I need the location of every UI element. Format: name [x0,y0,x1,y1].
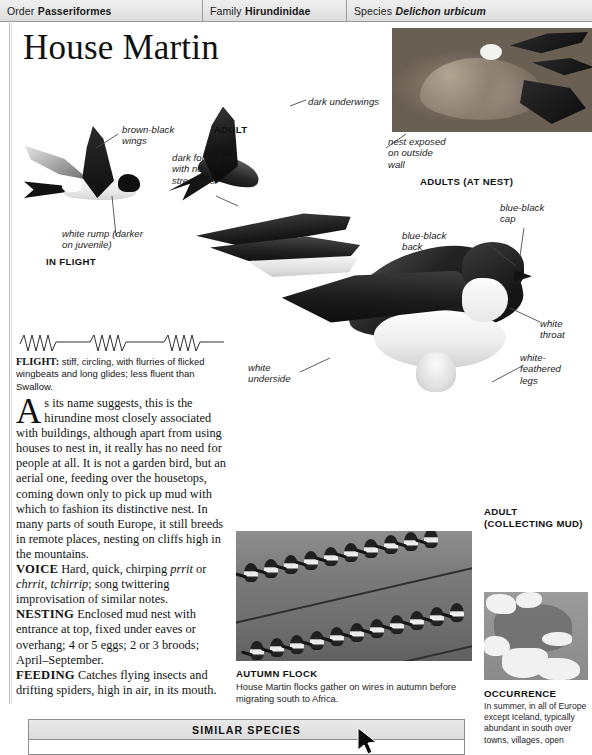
flock-bird [410,611,424,630]
order-label: Order [7,5,34,17]
family-value: Hirundinidae [245,5,310,17]
label-white-underside: white underside [248,362,291,385]
taxonomy-header: Order Passeriformes Family Hirundinidae … [0,0,592,22]
flight-label: FLIGHT: [16,356,59,367]
white-rump-shape [62,180,82,192]
species-label: Species [354,5,392,17]
page-title: House Martin [23,28,219,68]
family-label: Family [210,5,242,17]
landmass-shape [516,592,542,608]
flight-pattern-diagram [18,330,226,356]
field-guide-page: Order Passeriformes Family Hirundinidae … [0,0,592,755]
flock-bird [430,607,444,626]
drop-cap: A [16,396,44,426]
flock-bird [330,627,344,646]
order-value: Passeriformes [38,5,112,17]
species-description: As its name suggests, this is the hirund… [16,396,230,698]
nest-bird-shape [510,32,588,58]
similar-species-box: SIMILAR SPECIES [28,719,465,755]
nesting-paragraph: NESTING Enclosed mud nest with entrance … [16,607,230,667]
label-nest-exposed: nest exposed on outside wall [388,136,446,170]
voice-paragraph: VOICE Hard, quick, chirping prrit or chr… [16,562,230,607]
taxonomy-species: Species Delichon urbicum [346,0,592,22]
flock-bird [424,531,438,548]
flock-bird [364,539,378,558]
flock-bird [310,631,324,650]
landmass-shape [486,594,516,614]
nest-photo [392,28,592,132]
intro-text: s its name suggests, this is the hirundi… [16,396,226,561]
label-blue-black-cap: blue-black cap [500,202,544,225]
intro-paragraph: As its name suggests, this is the hirund… [16,396,230,562]
feeding-paragraph: FEEDING Catches flying insects and drift… [16,668,230,698]
label-brown-black-wings: brown-black wings [122,124,174,147]
flock-bird [390,615,404,634]
page-left-rule [9,23,10,704]
taxonomy-order: Order Passeriformes [0,0,202,22]
autumn-flock-description: House Martin flocks gather on wires in a… [236,681,462,706]
label-white-feathered-legs: white- feathered legs [520,352,561,386]
flock-bird [350,623,364,642]
occurrence-description: In summer, in all of Europe except Icela… [484,701,592,746]
caption-in-flight: IN FLIGHT [46,256,96,268]
caption-adult: ADULT [214,124,248,136]
voice-call-2: chrrit, tchirrip [16,577,88,591]
flock-bird [344,543,358,562]
autumn-flock-photo [236,531,472,661]
species-value: Delichon urbicum [396,5,486,17]
feeding-label: FEEDING [16,668,75,682]
in-flight-illustration [18,140,158,200]
flock-bird [284,555,298,574]
caption-adults-at-nest: ADULTS (AT NEST) [420,176,513,188]
flock-bird [450,603,464,622]
occurrence-map [484,592,588,680]
voice-call-1: prrit [170,562,193,576]
voice-label: VOICE [16,562,58,576]
label-white-rump: white rump (darker on juvenile) [62,228,143,251]
voice-text-1: Hard, quick, chirping [61,562,170,576]
flock-bird [290,635,304,654]
label-dark-underwings: dark underwings [308,96,379,107]
nest-bird-rump-shape [480,44,502,60]
caption-occurrence: OCCURRENCE [484,688,556,700]
flock-bird [324,547,338,566]
landmass-shape [538,658,580,680]
nest-bird-shape [532,58,592,80]
flock-bird [264,559,278,578]
label-dark-forked-tail: dark forked tail with no streamers [172,152,236,186]
page-left-rule-inner [11,23,12,704]
similar-species-heading: SIMILAR SPECIES [29,720,464,740]
flock-bird [304,551,318,570]
label-blue-black-back: blue-black back [402,230,446,253]
caption-autumn-flock: AUTUMN FLOCK [236,668,317,680]
flight-description: FLIGHT: stiff, circling, with flurries o… [16,356,234,393]
nest-bird-shape [520,80,586,124]
caption-adult-collecting-mud: ADULT (COLLECTING MUD) [484,506,583,529]
landmass-shape [542,632,572,646]
flock-bird [244,563,258,582]
upper-wing-shape [25,138,90,186]
nesting-label: NESTING [16,607,74,621]
mouse-cursor-icon [357,727,379,755]
voice-text-2: or [193,562,206,576]
label-white-throat: white throat [540,318,565,341]
head-shape [118,174,140,192]
white-feathered-legs-shape [416,352,456,392]
flock-bird [370,619,384,638]
taxonomy-family: Family Hirundinidae [202,0,346,22]
